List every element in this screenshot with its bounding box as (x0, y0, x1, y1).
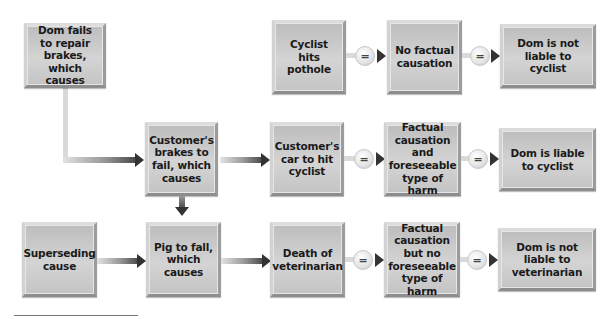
arrow-head-icon (377, 49, 386, 63)
box-label: Dom fails to repair brakes, which causes (31, 24, 99, 87)
arrow-head-icon (491, 49, 500, 63)
box-label: Dom is not liable to veterinarian (505, 241, 589, 279)
box-customers-car-hit: Customer's car to hit cyclist (270, 122, 344, 196)
box-label: No factual causation (394, 44, 455, 69)
connector-arrow-line (220, 157, 262, 163)
arrow-down-icon (175, 207, 189, 216)
arrow-head-icon (375, 253, 384, 267)
equals-icon: = (355, 46, 375, 66)
equals-icon: = (468, 149, 488, 169)
box-label: Customer's car to hit cyclist (275, 140, 339, 178)
box-label: Factual causation but no foreseeable typ… (388, 222, 456, 298)
box-dom-not-liable-cyclist: Dom is not liable to cyclist (500, 24, 596, 88)
box-label: Dom is not liable to cyclist (507, 37, 589, 75)
equals-icon: = (354, 149, 374, 169)
connector-arrow-line (63, 157, 136, 163)
box-dom-not-liable-vet: Dom is not liable to veterinarian (498, 228, 596, 291)
box-label: Superseding cause (23, 247, 95, 272)
box-label: Customer's brakes to fail, which causes (149, 134, 213, 184)
arrow-head-icon (261, 153, 270, 167)
box-cyclist-hits-pothole: Cyclist hits pothole (272, 20, 346, 94)
footnote-divider (14, 315, 138, 316)
equals-icon: = (353, 250, 373, 270)
connector-vertical (63, 88, 68, 161)
box-death-veterinarian: Death of veterinarian (270, 222, 345, 297)
connector-arrow-line (221, 258, 263, 264)
box-label: Factual causation and foreseeable type o… (389, 121, 457, 197)
box-label: Pig to fall, which causes (153, 241, 214, 279)
arrow-head-icon (489, 253, 498, 267)
box-factual-no-foreseeable: Factual causation but no foreseeable typ… (384, 222, 460, 297)
box-no-factual-causation: No factual causation (387, 20, 462, 94)
box-label: Cyclist hits pothole (279, 38, 339, 76)
arrow-head-icon (135, 153, 144, 167)
equals-icon: = (467, 250, 487, 270)
equals-icon: = (470, 46, 490, 66)
box-customers-brakes-fail: Customer's brakes to fail, which causes (145, 122, 218, 196)
arrow-head-icon (490, 152, 499, 166)
box-label: Death of veterinarian (272, 247, 342, 272)
box-factual-and-foreseeable: Factual causation and foreseeable type o… (384, 122, 461, 196)
box-dom-fails: Dom fails to repair brakes, which causes (24, 23, 106, 88)
connector-arrow-line (97, 258, 138, 264)
arrow-head-icon (137, 254, 146, 268)
box-superseding-cause: Superseding cause (22, 222, 97, 297)
box-pig-fall: Pig to fall, which causes (146, 222, 221, 297)
box-dom-liable-cyclist: Dom is liable to cyclist (499, 128, 596, 191)
box-label: Dom is liable to cyclist (506, 147, 589, 172)
